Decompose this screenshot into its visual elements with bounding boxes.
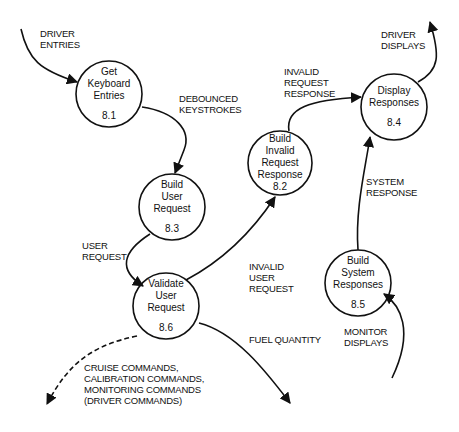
process-8-5: Build System Responses 8.5 (325, 250, 391, 316)
flow-label-line: RESPONSE (284, 88, 335, 99)
diagram-canvas (0, 0, 459, 432)
flow-invalid-request-response (289, 97, 361, 131)
flow-label-line: USER (82, 240, 127, 251)
process-8-3: Build User Request 8.3 (139, 174, 205, 240)
flow-label-line: REQUEST (284, 77, 335, 88)
flow-label-line: USER (249, 272, 294, 283)
process-8-3-line: Build (161, 179, 183, 191)
flow-label-debounced-keystrokes: DEBOUNCED KEYSTROKES (179, 93, 241, 115)
process-8-1-line: Keyboard (88, 78, 131, 90)
flow-label-user-request: USER REQUEST (82, 240, 127, 262)
process-8-4-id: 8.4 (387, 117, 401, 129)
flow-label-line: RESPONSE (366, 187, 417, 198)
process-8-2-line: Invalid (266, 145, 295, 157)
flow-label-line: CRUISE COMMANDS, (84, 362, 204, 373)
process-8-2-id: 8.2 (273, 181, 287, 193)
flow-label-invalid-user-request: INVALID USER REQUEST (249, 261, 294, 294)
process-8-2: Build Invalid Request Response 8.2 (248, 131, 312, 195)
flow-label-line: DEBOUNCED (179, 93, 241, 104)
flow-label-system-response: SYSTEM RESPONSE (366, 176, 417, 198)
flow-label-line: FUEL QUANTITY (249, 334, 321, 345)
flow-label-line: DRIVER (381, 29, 425, 40)
flow-label-line: MONITORING COMMANDS (84, 384, 204, 395)
process-8-4-line: Display (378, 85, 411, 97)
flow-label-driver-displays: DRIVER DISPLAYS (381, 29, 425, 51)
flow-label-line: SYSTEM (366, 176, 417, 187)
flow-label-line: KEYSTROKES (179, 104, 241, 115)
data-flow-diagram: Get Keyboard Entries 8.1 Build Invalid R… (0, 0, 459, 432)
flow-label-fuel-quantity: FUEL QUANTITY (249, 334, 321, 345)
process-8-1: Get Keyboard Entries 8.1 (76, 61, 142, 127)
flow-debounced-keystrokes (142, 107, 186, 173)
flow-label-line: DISPLAYS (381, 40, 425, 51)
flow-label-monitor-displays: MONITOR DISPLAYS (344, 326, 388, 348)
process-8-6-line: Request (147, 302, 184, 314)
process-8-6-id: 8.6 (159, 322, 173, 334)
process-8-1-line: Entries (93, 90, 124, 102)
process-8-3-line: User (161, 191, 182, 203)
flow-label-line: MONITOR (344, 326, 388, 337)
flow-label-line: REQUEST (82, 251, 127, 262)
flow-label-line: DRIVER (40, 28, 80, 39)
flow-label-driver-entries: DRIVER ENTRIES (40, 28, 80, 50)
process-8-4-line: Responses (369, 97, 419, 109)
process-8-6-line: User (155, 290, 176, 302)
flow-label-line: DISPLAYS (344, 337, 388, 348)
process-8-1-id: 8.1 (102, 110, 116, 122)
process-8-2-line: Build (269, 133, 291, 145)
flow-label-line: ENTRIES (40, 39, 80, 50)
process-8-2-line: Request (261, 157, 298, 169)
process-8-6-line: Validate (148, 278, 183, 290)
flow-label-invalid-request-response: INVALID REQUEST RESPONSE (284, 66, 335, 99)
flow-label-driver-commands: CRUISE COMMANDS, CALIBRATION COMMANDS, M… (84, 362, 204, 406)
process-8-6: Validate User Request 8.6 (133, 273, 199, 339)
process-8-5-line: Build (347, 255, 369, 267)
flow-label-line: INVALID (249, 261, 294, 272)
process-8-5-id: 8.5 (351, 299, 365, 311)
flow-label-line: INVALID (284, 66, 335, 77)
process-8-5-line: System (341, 267, 374, 279)
flow-label-line: (DRIVER COMMANDS) (84, 395, 204, 406)
flow-label-line: CALIBRATION COMMANDS, (84, 373, 204, 384)
process-8-5-line: Responses (333, 279, 383, 291)
process-8-3-line: Request (153, 203, 190, 215)
flow-label-line: REQUEST (249, 283, 294, 294)
process-8-4: Display Responses 8.4 (361, 74, 427, 140)
process-8-1-line: Get (101, 66, 117, 78)
process-8-3-id: 8.3 (165, 223, 179, 235)
process-8-2-line: Response (257, 169, 302, 181)
